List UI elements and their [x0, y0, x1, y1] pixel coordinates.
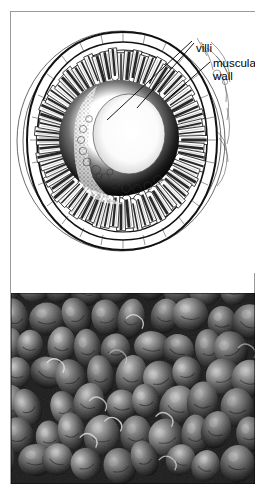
label-muscular-wall: muscular wall: [213, 57, 255, 82]
sem-image: [11, 293, 255, 484]
figure-plate: villi muscular wall: [0, 0, 267, 494]
cross-section-illustration: [11, 12, 255, 273]
label-muscular-line2: wall: [213, 70, 255, 83]
label-villi: villi: [196, 42, 212, 55]
villi-sem-micrograph: [11, 293, 255, 484]
intestine-cross-section-drawing: villi muscular wall: [11, 12, 255, 273]
label-muscular-line1: muscular: [213, 57, 255, 70]
